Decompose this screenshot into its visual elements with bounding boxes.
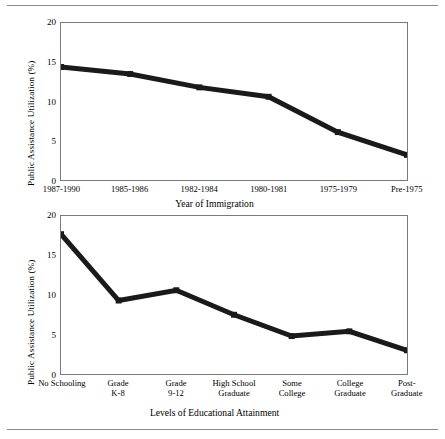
x-tick-label: Post-Graduate [391, 378, 423, 398]
data-point-marker [266, 94, 272, 100]
x-tick-label: Grade9-12 [166, 378, 187, 398]
x-tick-label: 1985-1986 [111, 184, 148, 194]
data-point-marker [173, 287, 179, 293]
bottom-divider-rule [7, 429, 438, 430]
data-point-marker [404, 152, 407, 158]
data-point-marker [61, 64, 64, 70]
data-point-marker [231, 312, 237, 318]
x-tick-label: GradeK-8 [108, 378, 129, 398]
data-point-marker [289, 333, 295, 339]
y-tick-label: 5 [38, 330, 56, 340]
y-axis-ticks-top: 05101520 [36, 22, 56, 181]
x-tick-label: 1982-1984 [181, 184, 218, 194]
x-tick-label: No Schooling [38, 378, 86, 388]
y-tick-label: 20 [38, 17, 56, 27]
y-tick-label: 10 [38, 97, 56, 107]
x-tick-label: High SchoolGraduate [212, 378, 255, 398]
x-tick-label: 1987-1990 [43, 184, 80, 194]
y-tick-label: 5 [38, 136, 56, 146]
data-point-marker [127, 71, 133, 77]
y-tick-label: 10 [38, 290, 56, 300]
data-point-marker [196, 84, 202, 90]
series-line [61, 67, 407, 155]
y-axis-title-top: Public Assistance Utilization (%) [26, 60, 36, 186]
x-tick-label: CollegeGraduate [334, 378, 366, 398]
y-axis-ticks-bottom: 05101520 [36, 215, 56, 375]
data-point-marker [346, 328, 352, 334]
line-series-bottom [61, 216, 407, 374]
x-tick-label: 1975-1979 [320, 184, 357, 194]
figure-page: Public Assistance Utilization (%) 051015… [0, 0, 445, 439]
x-axis-title-bottom: Levels of Educational Attainment [0, 407, 437, 418]
plot-area-bottom [60, 215, 408, 375]
series-line [61, 234, 407, 350]
data-point-marker [335, 129, 341, 135]
y-tick-label: 15 [38, 57, 56, 67]
data-point-marker [116, 298, 122, 304]
line-series-top [61, 23, 407, 180]
x-tick-label: SomeCollege [279, 378, 306, 398]
x-tick-label: 1980-1981 [250, 184, 287, 194]
chart-education: Public Assistance Utilization (%) 051015… [0, 207, 445, 429]
plot-area-top [60, 22, 408, 181]
y-axis-title-bottom: Public Assistance Utilization (%) [26, 259, 36, 385]
data-point-marker [61, 231, 64, 237]
top-divider-rule [7, 5, 438, 6]
chart-immigration: Public Assistance Utilization (%) 051015… [0, 14, 445, 204]
data-point-marker [404, 347, 407, 353]
x-tick-label: Pre-1975 [391, 184, 423, 194]
y-tick-label: 20 [38, 210, 56, 220]
y-tick-label: 15 [38, 250, 56, 260]
